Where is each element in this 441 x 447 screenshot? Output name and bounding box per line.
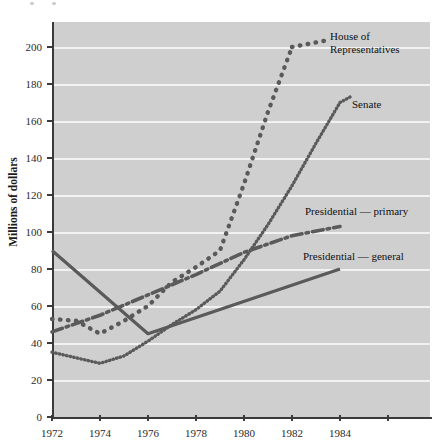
annotation-house-line1: House of [330,30,370,42]
annotation-house-line2: Representatives [330,43,400,55]
series-layer [0,0,441,447]
annotation-presidential-primary: Presidential — primary [305,205,408,218]
chart-figure: 020406080100120140160180200 197219741976… [0,0,441,447]
series-line-senate [52,103,340,364]
series-line-house-of-representatives [52,47,292,334]
annotation-presidential-general: Presidential — general [303,250,404,263]
annotation-senate: Senate [352,98,381,111]
series-line-presidential-general [52,251,340,334]
leader-senate [340,97,350,103]
annotation-house-of-representatives: House of Representatives [330,30,435,55]
leader-house-of-representatives [292,41,326,47]
